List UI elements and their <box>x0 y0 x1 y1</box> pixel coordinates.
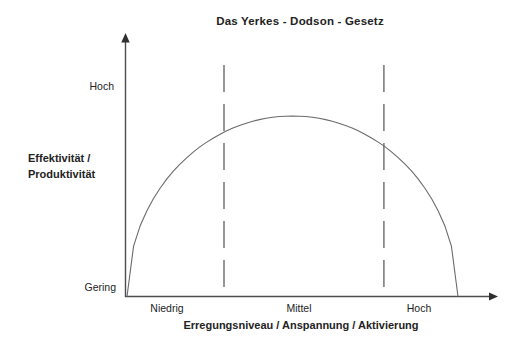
y-axis-title-line1: Effektivität / <box>28 152 90 164</box>
y-tick-hoch: Hoch <box>58 80 114 92</box>
x-tick-hoch: Hoch <box>384 302 454 314</box>
yerkes-dodson-chart: Das Yerkes - Dodson - Gesetz Effektivitä… <box>0 0 522 340</box>
y-axis-title: Effektivität / Produktivität <box>28 150 123 182</box>
y-tick-gering: Gering <box>56 281 116 293</box>
x-axis-title: Erregungsniveau / Anspannung / Aktivieru… <box>140 319 462 331</box>
x-tick-niedrig: Niedrig <box>132 302 202 314</box>
x-axis-arrowhead <box>489 293 498 301</box>
y-axis-arrowhead <box>121 33 129 43</box>
yerkes-dodson-curve <box>127 116 458 297</box>
chart-title: Das Yerkes - Dodson - Gesetz <box>155 15 445 27</box>
y-axis-title-line2: Produktivität <box>28 168 95 180</box>
x-tick-mittel: Mittel <box>264 302 334 314</box>
